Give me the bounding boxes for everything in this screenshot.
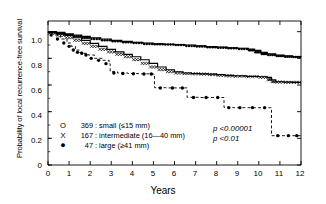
kaplan-meier-figure: Probability of local recurrence-free sur… xyxy=(0,0,326,204)
plot-canvas xyxy=(0,0,326,204)
